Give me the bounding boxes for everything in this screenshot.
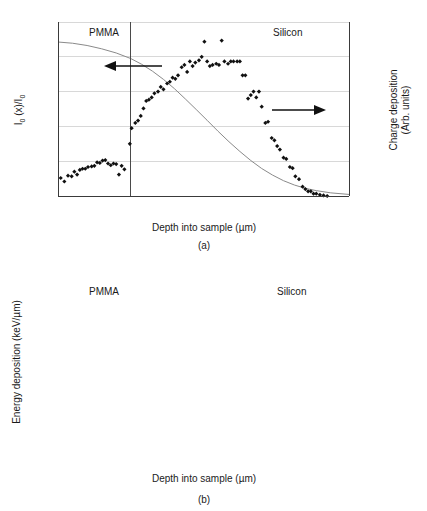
data-point [70,174,74,178]
data-point [66,174,70,178]
data-point [220,38,224,42]
chart-panel-b: PMMA Silicon Depth into sample (µm) Ener… [0,252,427,511]
data-point [238,59,242,63]
chart-b-svg: PMMA Silicon Depth into sample (µm) Ener… [0,252,427,511]
data-point [270,136,274,140]
data-point [249,93,253,97]
data-point [243,73,247,77]
region-label-pmma: PMMA [89,27,119,38]
data-point [222,59,226,63]
data-point [161,87,165,91]
right-pointing-arrow-icon [272,105,326,115]
data-point [188,59,192,63]
data-point [156,90,160,94]
data-point [117,172,121,176]
chart-a-datapoints [59,38,330,198]
data-point [75,172,79,176]
panel-b-caption: (b) [198,494,210,505]
data-point [231,59,235,63]
figure-container: PMMA Silicon Depth into sample (µm) I0 (… [0,0,427,511]
data-point [251,90,255,94]
data-point [278,148,282,152]
data-point [133,121,137,125]
data-point [136,119,140,123]
data-point [122,167,126,171]
data-point [297,177,301,181]
data-point [193,61,197,65]
data-point [176,73,180,77]
data-point [180,65,184,69]
data-point [128,142,132,146]
data-point [226,62,230,66]
data-point [120,164,124,168]
region-label-pmma: PMMA [89,286,119,297]
data-point [202,40,206,44]
data-point [200,55,204,59]
data-point [257,90,261,94]
data-point [159,85,163,89]
chart-a-xaxis-title: Depth into sample (µm) [152,222,256,233]
data-point [150,95,154,99]
chart-a-axes [58,22,349,196]
data-point [139,114,143,118]
data-point [114,162,118,166]
data-point [321,193,325,197]
chart-panel-a: PMMA Silicon Depth into sample (µm) I0 (… [0,0,427,256]
chart-a-transmission-curve [58,42,349,194]
data-point [72,170,76,174]
panel-a-caption: (a) [198,240,210,251]
data-point [190,64,194,68]
region-label-silicon: Silicon [277,286,306,297]
data-point [182,63,186,67]
data-point [141,106,145,110]
data-point [272,138,276,142]
region-label-silicon: Silicon [273,27,302,38]
data-point [205,59,209,63]
data-point [92,164,96,168]
data-point [197,58,201,62]
data-point [62,179,66,183]
data-point [185,70,189,74]
chart-a-yaxis-title: I0 (x)/I0 [13,95,26,126]
chart-b-xaxis-title: Depth into sample (µm) [152,473,256,484]
data-point [293,174,297,178]
data-point [254,95,258,99]
data-point [314,192,318,196]
data-point [260,105,264,109]
data-point [246,96,250,100]
transmission-curve-path [58,42,349,194]
data-point [275,144,279,148]
chart-a-svg: PMMA Silicon Depth into sample (µm) I0 (… [0,0,427,256]
chart-a-y2axis-title-line2: (Arb. units) [400,86,411,135]
data-point [59,176,63,180]
chart-a-y2axis-title-line1: Charge deposition [388,69,399,150]
chart-b-yaxis-title: Energy deposition (keV/µm) [11,300,22,424]
left-pointing-arrow-icon [104,61,162,71]
